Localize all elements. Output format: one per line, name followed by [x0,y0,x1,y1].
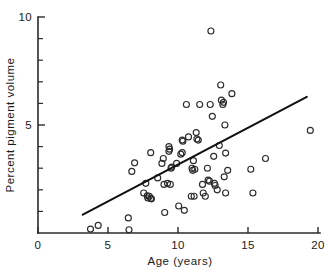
x-ticklabel: 15 [241,239,255,251]
data-point [183,101,189,107]
data-point [95,222,101,228]
data-point [223,150,229,156]
scatter-plot-figure: 510 05101520 Age (years) Percent pigment… [0,0,335,276]
data-point-group [88,28,314,233]
data-point [176,203,182,209]
data-point [222,122,228,128]
x-ticklabel: 0 [35,239,42,251]
data-point [193,130,199,136]
plot-canvas: 510 05101520 Age (years) Percent pigment… [0,0,335,276]
axes-group [38,17,320,233]
data-point [125,215,131,221]
x-axis-title: Age (years) [148,255,213,267]
x-ticklabel: 10 [171,239,185,251]
x-ticklabel: 20 [311,239,325,251]
data-point [181,207,187,213]
data-point [211,153,217,159]
y-axis-ticks [38,17,45,211]
data-point [126,227,132,233]
data-point [204,165,210,171]
data-point [225,167,231,173]
data-point [209,113,215,119]
x-axis-ticks [38,227,318,233]
y-axis-title: Percent pigment volume [4,57,16,192]
data-point [207,101,213,107]
data-point [263,155,269,161]
x-ticklabel: 5 [105,239,112,251]
data-point [162,209,168,215]
data-point [129,168,135,174]
x-axis-ticklabels: 05101520 [35,239,325,251]
data-point [208,28,214,34]
data-point [179,150,185,156]
data-point [186,134,192,140]
data-point [200,181,206,187]
data-point [221,174,227,180]
data-point [88,226,94,232]
data-point [223,190,229,196]
data-point [148,150,154,156]
data-point [132,160,138,166]
data-point [307,127,313,133]
y-ticklabel: 5 [25,119,32,131]
y-axis-ticklabels: 510 [18,11,32,131]
data-point [248,166,254,172]
data-point [218,82,224,88]
y-ticklabel: 10 [18,11,32,23]
data-point [197,101,203,107]
data-point [250,190,256,196]
data-point [229,91,235,97]
